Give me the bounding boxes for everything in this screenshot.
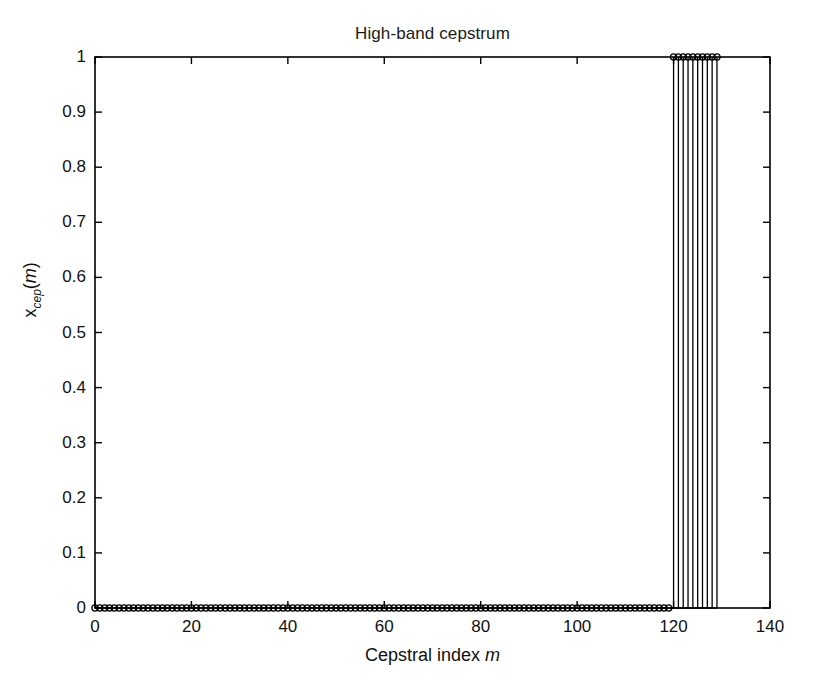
plot-area bbox=[0, 0, 826, 684]
figure-canvas: High-band cepstrum xcep(m) Cepstral inde… bbox=[0, 0, 826, 684]
stem-lines bbox=[674, 57, 717, 608]
axis-frame bbox=[95, 57, 770, 608]
tick-marks bbox=[95, 57, 770, 608]
data-markers bbox=[92, 54, 720, 611]
axis-box bbox=[95, 57, 770, 608]
